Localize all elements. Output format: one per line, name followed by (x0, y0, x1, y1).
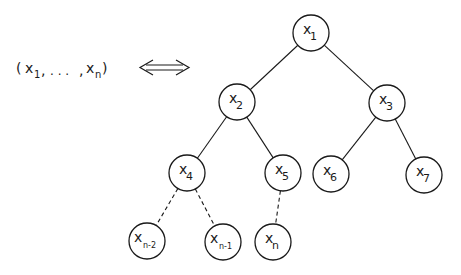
double-arrow-icon (140, 60, 189, 75)
edge-x3-x6 (342, 117, 376, 160)
node-sub: 7 (423, 172, 430, 185)
node-sub: 3 (386, 100, 393, 113)
node-sub: 6 (330, 171, 337, 184)
last-sub: n (95, 69, 101, 80)
node-sub: n-2 (143, 241, 156, 250)
node-x1: x1 (293, 15, 329, 51)
node-xn: xn (255, 224, 291, 260)
node-x4: x4 (169, 155, 205, 191)
edge-x4-xn-2 (156, 189, 178, 226)
edge-x5-xn (276, 191, 281, 224)
node-sub: n-1 (219, 242, 232, 251)
edge-x3-x7 (395, 119, 416, 159)
node-x3: x3 (369, 85, 405, 121)
node-var: x (134, 229, 142, 245)
node-x5: x5 (265, 155, 301, 191)
first-var: x (25, 60, 33, 76)
node-sub: 5 (282, 170, 289, 183)
node-xn-2: xn-2 (129, 223, 165, 259)
node-sub: 4 (186, 170, 193, 183)
edge-x1-x2 (250, 45, 298, 89)
ellipsis: . . . (50, 64, 69, 78)
node-sub: n (272, 239, 279, 252)
node-sub: 1 (310, 30, 317, 43)
edge-x1-x3 (324, 45, 374, 91)
edge-x2-x4 (197, 117, 226, 159)
tree-edges (156, 45, 416, 226)
close-paren: ) (102, 60, 107, 76)
last-var: x (86, 60, 94, 76)
sep-1: , (41, 62, 45, 78)
node-sub: 2 (236, 99, 243, 112)
edge-x2-x5 (247, 117, 273, 158)
node-x6: x6 (313, 156, 349, 192)
edge-x4-xn-1 (195, 189, 214, 226)
tree-nodes: x1x2x3x4x5x6x7xn-2xn-1xn (129, 15, 442, 260)
first-sub: 1 (34, 69, 40, 80)
node-x7: x7 (406, 157, 442, 193)
diagram-canvas: ( x 1 , . . . , x n ) x1x2x3x4x5x6x7xn-2… (0, 0, 461, 275)
node-var: x (210, 230, 218, 246)
node-xn-1: xn-1 (205, 224, 241, 260)
open-paren: ( (16, 60, 21, 76)
sep-2: , (79, 62, 83, 78)
node-x2: x2 (219, 84, 255, 120)
sequence-tuple: ( x 1 , . . . , x n ) (16, 60, 107, 80)
